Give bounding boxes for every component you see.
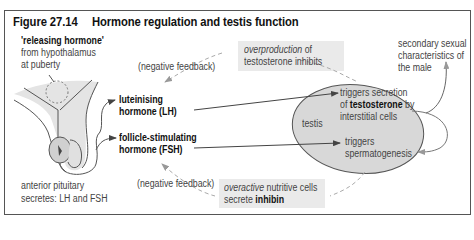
anterior-pituitary-label: anterior pituitary: [21, 180, 84, 192]
lh-label-2: hormone (LH): [119, 106, 177, 118]
triggers-secretion-label: triggers secretion: [340, 87, 407, 99]
releasing-hormone-label: 'releasing hormone': [21, 35, 104, 47]
testosterone-inhibits-label: testosterone inhibits: [244, 56, 322, 68]
from-hypothalamus-label: from hypothalamus: [21, 47, 96, 59]
negative-feedback-top-label: (negative feedback): [138, 61, 215, 73]
overproduction-label: overproduction of: [244, 44, 312, 56]
fsh-label-1: follicle-stimulating: [119, 132, 197, 144]
overactive-label: overactive nutritive cells: [224, 182, 317, 194]
negative-feedback-bottom-label: (negative feedback): [137, 178, 214, 190]
pituitary-illustration: [14, 75, 116, 174]
fsh-label-2: hormone (FSH): [119, 144, 183, 156]
secondary-sexual-label-2: characteristics of: [398, 50, 464, 62]
testosterone-label: of testosterone by: [340, 99, 414, 111]
lh-label-1: luteinising: [119, 94, 163, 106]
testis-label: testis: [302, 118, 323, 130]
triggers-label: triggers: [345, 136, 374, 148]
interstitial-cells-label: interstitial cells: [340, 111, 397, 123]
secondary-sexual-label-3: the male: [398, 62, 432, 74]
secondary-sexual-label-1: secondary sexual: [398, 38, 466, 50]
inhibin-label: secrete inhibin: [224, 194, 284, 206]
secretes-label: secretes: LH and FSH: [21, 193, 108, 205]
at-puberty-label: at puberty: [21, 59, 60, 71]
spermatogenesis-label: spermatogenesis: [345, 148, 412, 160]
